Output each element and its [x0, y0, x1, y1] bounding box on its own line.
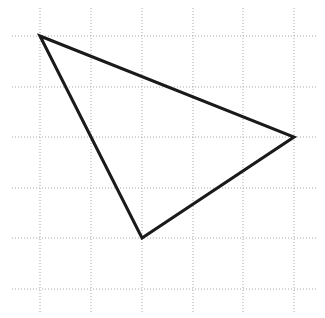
figure-canvas — [0, 0, 325, 318]
figure-background — [0, 0, 325, 318]
geometry-figure — [0, 0, 325, 318]
